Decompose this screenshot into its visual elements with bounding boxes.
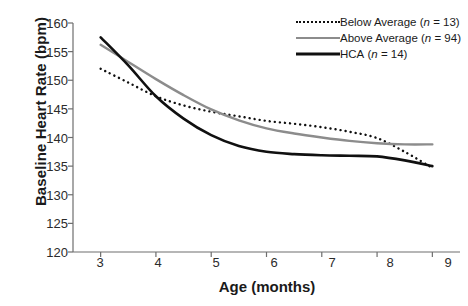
legend-swatch-dotted-line-icon xyxy=(296,16,340,28)
legend-swatch-gray-line-icon xyxy=(296,32,340,44)
legend-n-value: = 94) xyxy=(434,32,461,44)
legend-n-value: = 14) xyxy=(381,48,408,60)
legend-label-text: HCA xyxy=(340,48,364,60)
legend-item-above-average[interactable]: Above Average (n = 94) xyxy=(296,30,468,46)
legend-n-value: = 13) xyxy=(433,16,460,28)
x-axis-ticks xyxy=(101,252,433,257)
legend-label-text: Above Average xyxy=(340,32,418,44)
legend-label-above-average: Above Average (n = 94) xyxy=(340,32,461,45)
y-axis-ticks xyxy=(68,23,73,252)
legend-item-below-average[interactable]: Below Average (n = 13) xyxy=(296,14,468,30)
legend-label-text: Below Average xyxy=(340,16,417,28)
chart-figure: Baseline Heart Rate (bpm) 160 155 150 14… xyxy=(0,0,468,306)
legend-label-hca: HCA (n = 14) xyxy=(340,48,407,61)
legend-item-hca[interactable]: HCA (n = 14) xyxy=(296,46,468,62)
legend-swatch-black-line-icon xyxy=(296,48,340,60)
chart-legend: Below Average (n = 13) Above Average (n … xyxy=(296,14,468,62)
legend-label-below-average: Below Average (n = 13) xyxy=(340,16,460,29)
